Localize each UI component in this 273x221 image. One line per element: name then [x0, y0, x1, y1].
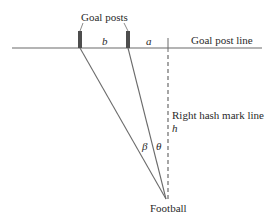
football-goal-angle-diagram: Goal posts Goal post line b a Right hash… — [0, 0, 273, 221]
right-goal-post — [126, 31, 130, 48]
distance-a-label: a — [146, 35, 152, 47]
right-hash-mark-line-label: Right hash mark line — [172, 109, 264, 121]
sight-line-right-post — [128, 48, 166, 199]
goal-post-line-label: Goal post line — [191, 34, 253, 46]
left-goal-post — [78, 31, 82, 48]
goal-posts-label: Goal posts — [81, 11, 128, 23]
goal-posts-leader-right — [124, 23, 128, 31]
football-label: Football — [150, 202, 187, 214]
angle-beta-label: β — [141, 140, 148, 152]
height-h-label: h — [172, 122, 178, 134]
distance-b-label: b — [102, 35, 108, 47]
goal-posts-leader-left — [80, 23, 83, 31]
angle-theta-label: θ — [156, 140, 162, 152]
sight-line-left-post — [80, 48, 166, 199]
